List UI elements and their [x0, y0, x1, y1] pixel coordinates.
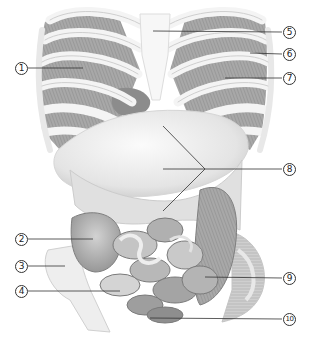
callout-9: 9 [283, 272, 296, 285]
callout-6: 6 [283, 48, 296, 61]
callout-3: 3 [15, 260, 28, 273]
callout-2: 2 [15, 233, 28, 246]
callout-10: 10 [283, 313, 296, 326]
callout-8: 8 [283, 163, 296, 176]
callout-4: 4 [15, 285, 28, 298]
callout-7: 7 [283, 72, 296, 85]
anatomy-figure: 1 2 3 4 5 6 7 8 9 10 [0, 0, 311, 340]
callout-1: 1 [15, 62, 28, 75]
anatomy-illustration [0, 0, 311, 340]
callout-5: 5 [283, 26, 296, 39]
sternum [140, 14, 170, 100]
